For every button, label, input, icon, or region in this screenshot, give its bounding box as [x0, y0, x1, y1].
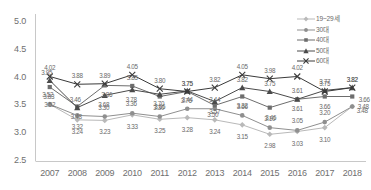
data-point-marker	[185, 106, 190, 111]
data-point-label: 3.85	[127, 73, 138, 80]
data-point-label: 3.48	[358, 102, 369, 109]
data-point-marker	[157, 114, 162, 119]
data-point-label: 3.15	[237, 132, 248, 139]
legend-item-2[interactable]: 30대	[296, 25, 368, 36]
data-point-label: 3.78	[126, 95, 137, 102]
series-5	[47, 72, 356, 95]
data-point-label: 3.52	[44, 101, 55, 108]
data-point-marker	[240, 113, 245, 118]
data-point-label: 3.75	[182, 79, 193, 86]
data-point-label: 3.61	[292, 105, 303, 112]
data-point-marker	[239, 85, 245, 91]
legend-item-5[interactable]: 60대	[296, 56, 368, 67]
data-point-label: 4.05	[237, 62, 248, 69]
legend-item-label: 60대	[316, 56, 329, 66]
data-point-label: 3.70	[153, 100, 164, 107]
data-point-marker	[323, 94, 327, 98]
data-point-label: 3.03	[292, 139, 303, 146]
data-point-label: 3.24	[209, 127, 220, 134]
data-point-label: 3.66	[319, 102, 330, 109]
data-point-marker	[268, 106, 272, 110]
legend-marker-icon	[296, 56, 316, 66]
data-point-marker	[130, 111, 135, 116]
series-line	[50, 104, 353, 130]
data-point-label: 3.46	[265, 113, 276, 120]
series-layer	[47, 72, 356, 137]
series-2	[47, 102, 354, 133]
data-point-label: 4.05	[127, 62, 138, 69]
data-point-marker	[239, 122, 245, 128]
data-point-label: 3.89	[99, 71, 110, 78]
y-axis-tick-label: 2.5	[2, 155, 26, 165]
data-point-label: 3.66	[359, 95, 370, 102]
legend-marker-icon	[296, 14, 316, 24]
data-point-marker	[184, 115, 190, 121]
legend-marker-icon	[296, 25, 316, 35]
data-point-label: 3.82	[347, 75, 358, 82]
data-point-marker	[48, 85, 52, 89]
data-point-marker	[212, 117, 218, 123]
data-point-label: 4.02	[44, 64, 55, 71]
data-point-label: 3.46	[70, 95, 81, 102]
data-point-label: 3.05	[292, 117, 303, 124]
data-point-marker	[267, 125, 272, 130]
data-point-label: 3.28	[182, 125, 193, 132]
data-point-label: 3.32	[72, 123, 83, 130]
y-axis-tick-label: 4.0	[2, 72, 26, 82]
chart-legend: 19~29세30대40대50대60대	[296, 14, 368, 67]
data-point-label: 3.57	[209, 107, 220, 114]
data-point-label: 3.20	[319, 109, 330, 116]
data-point-label: 3.44	[209, 95, 220, 102]
data-point-label: 3.83	[43, 93, 54, 100]
data-point-label: 3.48	[71, 112, 82, 119]
data-point-marker	[350, 94, 354, 98]
legend-marker-icon	[296, 35, 316, 45]
legend-item-3[interactable]: 40대	[296, 35, 368, 46]
data-point-marker	[322, 120, 327, 125]
data-point-marker	[267, 132, 273, 138]
data-point-label: 3.86	[101, 91, 112, 98]
data-point-label: 3.82	[209, 75, 220, 82]
y-axis-tick-label: 3.5	[2, 99, 26, 109]
data-point-label: 3.61	[292, 87, 303, 94]
data-point-label: 3.33	[127, 122, 138, 129]
series-line	[50, 75, 353, 92]
series-1	[47, 101, 355, 137]
legend-item-label: 50대	[316, 46, 329, 56]
series-4	[47, 77, 356, 110]
data-point-label: 3.75	[264, 79, 275, 86]
data-point-label: 3.25	[154, 127, 165, 134]
legend-item-1[interactable]: 19~29세	[296, 14, 368, 25]
y-axis-tick-label: 5.0	[2, 16, 26, 26]
x-axis-tick-label: 2018	[335, 168, 369, 178]
series-line	[50, 80, 353, 107]
data-point-marker	[102, 114, 107, 119]
legend-item-label: 19~29세	[316, 14, 339, 24]
y-axis-tick-label: 3.0	[2, 127, 26, 137]
legend-marker-icon	[296, 46, 316, 56]
data-point-marker	[350, 104, 355, 109]
y-axis-tick-label: 4.5	[2, 44, 26, 54]
legend-item-label: 30대	[316, 25, 329, 35]
legend-item-4[interactable]: 50대	[296, 46, 368, 57]
data-point-label: 3.75	[319, 79, 330, 86]
data-point-label: 3.82	[237, 75, 248, 82]
data-point-label: 3.80	[154, 76, 165, 83]
data-point-label: 3.68	[98, 101, 109, 108]
data-point-label: 3.66	[237, 102, 248, 109]
line-chart: 5.04.54.03.53.02.5 200720082009201020112…	[0, 0, 371, 190]
data-point-label: 3.98	[264, 66, 275, 73]
data-point-label: 3.10	[319, 135, 330, 142]
legend-item-label: 40대	[316, 35, 329, 45]
data-point-label: 3.88	[72, 72, 83, 79]
data-point-marker	[240, 94, 244, 98]
data-point-label: 3.76	[181, 96, 192, 103]
data-point-marker	[129, 87, 135, 93]
data-point-label: 3.23	[99, 128, 110, 135]
data-point-marker	[295, 128, 300, 133]
data-point-label: 2.98	[264, 142, 275, 149]
